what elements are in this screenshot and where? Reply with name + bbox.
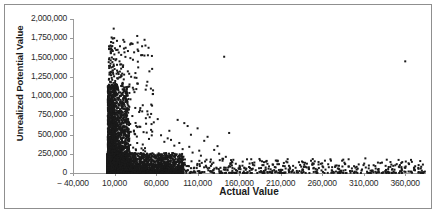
y-tick-label: 500,000: [5, 129, 67, 139]
y-tick-label: 1,250,000: [5, 71, 67, 81]
y-tick-label: 1,750,000: [5, 32, 67, 42]
y-tick-label: 1,500,000: [5, 52, 67, 62]
scatter-chart: Unrealized Potential Value Actual Value …: [5, 5, 433, 210]
y-tick-label: 750,000: [5, 109, 67, 119]
y-tick-label: 250,000: [5, 148, 67, 158]
chart-figure-frame: Unrealized Potential Value Actual Value …: [4, 4, 432, 209]
data-point-group: [106, 28, 426, 174]
y-tick-label: 1,000,000: [5, 90, 67, 100]
x-tick-label: 360,000: [375, 178, 435, 188]
y-tick-label: 0: [5, 167, 67, 177]
y-tick-label: 2,000,000: [5, 13, 67, 23]
